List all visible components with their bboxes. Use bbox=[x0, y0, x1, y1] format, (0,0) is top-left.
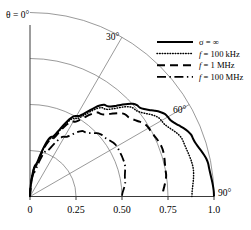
polar-arc-r0_25 bbox=[30, 151, 76, 197]
polar-plot-svg: θ = 0° 30° 60° 90° 00.250.500.751.0 σ = … bbox=[0, 0, 251, 230]
x-tick-label-0: 0 bbox=[28, 204, 33, 215]
curve-dotted bbox=[30, 107, 194, 197]
angle-label-30: 30° bbox=[106, 32, 120, 42]
legend-value-2: = 1 MHz bbox=[201, 60, 234, 70]
legend: σ = ∞f = 100 kHzf = 1 MHzf = 100 MHz bbox=[157, 37, 243, 82]
legend-label-2: f = 1 MHz bbox=[199, 60, 235, 70]
legend-label-3: f = 100 MHz bbox=[199, 72, 243, 82]
curve-solid bbox=[30, 104, 214, 197]
polar-plot-figure: θ = 0° 30° 60° 90° 00.250.500.751.0 σ = … bbox=[0, 0, 251, 230]
theta-origin-label: θ = 0° bbox=[6, 10, 29, 20]
polar-radial-60deg bbox=[30, 105, 189, 197]
x-tick-label-1: 0.25 bbox=[67, 204, 85, 215]
legend-value-1: = 100 kHz bbox=[201, 49, 240, 59]
curve-dashdot bbox=[30, 131, 125, 196]
legend-label-0: σ = ∞ bbox=[199, 37, 219, 47]
curve-dashed bbox=[30, 113, 166, 197]
angle-label-90: 90° bbox=[218, 188, 232, 198]
angle-label-60: 60° bbox=[173, 105, 187, 115]
data-curves bbox=[30, 104, 214, 197]
x-tick-label-4: 1.0 bbox=[208, 204, 221, 215]
x-axis-tick-marks bbox=[30, 197, 214, 201]
legend-label-1: f = 100 kHz bbox=[199, 49, 240, 59]
legend-value-3: = 100 MHz bbox=[201, 72, 243, 82]
x-tick-label-3: 0.75 bbox=[159, 204, 177, 215]
x-tick-label-2: 0.50 bbox=[113, 204, 131, 215]
x-axis-tick-labels: 00.250.500.751.0 bbox=[28, 204, 221, 215]
